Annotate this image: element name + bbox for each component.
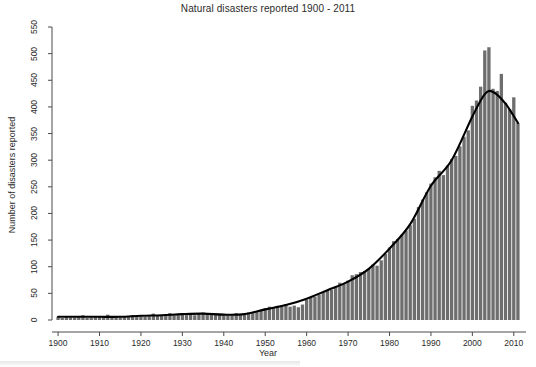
- y-tick-label: 50: [29, 289, 39, 298]
- bar: [384, 254, 387, 320]
- bar: [433, 177, 436, 320]
- bar: [508, 109, 511, 320]
- y-tick-label: 450: [29, 73, 39, 87]
- bar: [438, 171, 441, 320]
- bar: [450, 159, 453, 320]
- x-tick-label: 1990: [421, 338, 440, 348]
- bar: [148, 316, 151, 320]
- bar: [429, 184, 432, 320]
- bar: [487, 47, 490, 320]
- bar: [172, 315, 175, 320]
- bar: [516, 123, 519, 320]
- x-tick-label: 1950: [256, 338, 275, 348]
- bar: [272, 308, 275, 320]
- bar: [61, 318, 64, 320]
- y-tick-label: 0: [29, 318, 39, 323]
- bar: [334, 287, 337, 320]
- x-tick-label: 1900: [49, 338, 68, 348]
- bar: [326, 290, 329, 320]
- x-tick-label: 1980: [380, 338, 399, 348]
- bar: [458, 146, 461, 320]
- bar: [483, 50, 486, 320]
- bar: [85, 318, 88, 320]
- x-tick-label: 2010: [504, 338, 523, 348]
- y-tick-label: 300: [29, 153, 39, 167]
- bar: [330, 290, 333, 320]
- bar: [491, 89, 494, 320]
- x-tick-label: 2000: [463, 338, 482, 348]
- bar: [322, 292, 325, 320]
- bar: [276, 307, 279, 320]
- x-tick-label: 1970: [339, 338, 358, 348]
- bar: [409, 225, 412, 320]
- x-tick-label: 1960: [297, 338, 316, 348]
- bar: [367, 269, 370, 320]
- bar: [446, 166, 449, 320]
- bar: [462, 137, 465, 320]
- bar: [143, 317, 146, 320]
- x-tick-label: 1910: [90, 338, 109, 348]
- bar: [317, 294, 320, 320]
- bar: [301, 305, 304, 320]
- bar: [504, 103, 507, 320]
- bar: [375, 266, 378, 320]
- bar: [496, 91, 499, 320]
- bar: [512, 97, 515, 320]
- bar: [388, 248, 391, 320]
- bar: [467, 130, 470, 320]
- bar: [346, 281, 349, 320]
- bar: [305, 300, 308, 320]
- bar: [421, 200, 424, 320]
- bar: [189, 315, 192, 320]
- bar: [222, 315, 225, 320]
- bar: [355, 274, 358, 320]
- y-tick-label: 550: [29, 20, 39, 34]
- y-tick-label: 150: [29, 233, 39, 247]
- bar: [351, 275, 354, 320]
- bar: [425, 192, 428, 320]
- y-tick-label: 500: [29, 47, 39, 61]
- y-tick-label: 250: [29, 180, 39, 194]
- bar: [297, 307, 300, 320]
- y-tick-label: 200: [29, 206, 39, 220]
- bar: [226, 315, 229, 320]
- y-tick-label: 350: [29, 126, 39, 140]
- bar: [243, 315, 246, 320]
- bar: [193, 315, 196, 320]
- bar: [442, 175, 445, 320]
- bar: [396, 239, 399, 320]
- bar: [371, 265, 374, 320]
- y-tick-label: 400: [29, 100, 39, 114]
- bar: [338, 283, 341, 320]
- bar: [177, 315, 180, 320]
- bar: [293, 306, 296, 320]
- bar: [359, 272, 362, 320]
- x-tick-label: 1940: [214, 338, 233, 348]
- bar: [479, 87, 482, 320]
- bar: [309, 298, 312, 320]
- bar: [288, 307, 291, 320]
- plot-canvas: [0, 0, 536, 367]
- bar: [404, 231, 407, 321]
- x-tick-label: 1920: [131, 338, 150, 348]
- bar: [500, 74, 503, 320]
- bar: [259, 310, 262, 320]
- bar: [363, 271, 366, 320]
- bar: [471, 106, 474, 320]
- bar: [417, 207, 420, 320]
- bar: [413, 219, 416, 320]
- bar: [342, 284, 345, 320]
- x-axis-ticks: [58, 332, 514, 336]
- y-axis-ticks: [48, 27, 52, 320]
- x-tick-label: 1930: [173, 338, 192, 348]
- y-tick-label: 100: [29, 260, 39, 274]
- bar: [135, 317, 138, 320]
- bar: [313, 297, 316, 320]
- chart-figure: Natural disasters reported 1900 - 2011 N…: [0, 0, 536, 367]
- bar: [454, 156, 457, 320]
- bar: [475, 101, 478, 320]
- bar: [392, 241, 395, 320]
- bar: [400, 235, 403, 320]
- bars-group: [56, 47, 519, 320]
- bar: [380, 260, 383, 320]
